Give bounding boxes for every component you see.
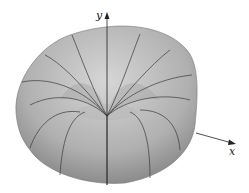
y-axis-arrow xyxy=(105,12,110,19)
x-axis-label: x xyxy=(229,145,235,158)
surface-plot xyxy=(0,0,249,193)
x-axis xyxy=(196,133,232,143)
y-axis-label: y xyxy=(96,9,102,22)
